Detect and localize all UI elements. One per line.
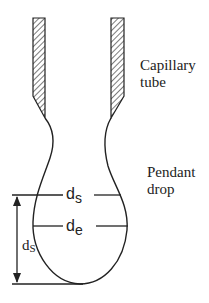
de-base: d <box>66 217 75 234</box>
ds-vertical-label: dS <box>22 238 36 256</box>
ds-base: d <box>66 185 75 202</box>
pendant-label-line1: Pendant <box>147 164 195 181</box>
ds-sub: s <box>75 190 82 206</box>
capillary-wall-right <box>111 18 124 118</box>
capillary-label-line1: Capillary <box>140 57 196 74</box>
ds-vertical-base: d <box>22 237 30 253</box>
arrow-down-icon <box>13 273 21 283</box>
ds-vertical-sub: S <box>30 242 36 254</box>
pendant-label-line2: drop <box>147 181 195 198</box>
capillary-label-line2: tube <box>140 74 196 91</box>
ds-horizontal-label: ds <box>66 186 82 206</box>
de-horizontal-label: de <box>66 218 83 238</box>
pendant-drop-diagram <box>0 0 209 303</box>
capillary-tube-label: Capillary tube <box>140 57 196 91</box>
capillary-wall-left <box>33 18 45 118</box>
arrow-up-icon <box>13 196 21 206</box>
de-sub: e <box>75 222 83 238</box>
pendant-drop-label: Pendant drop <box>147 164 195 198</box>
